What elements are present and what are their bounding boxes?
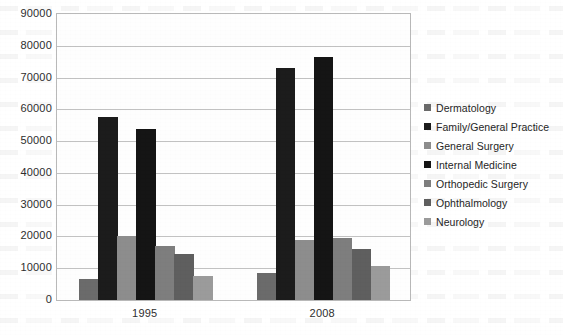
legend-item: General Surgery	[424, 136, 563, 155]
y-axis-tick-label: 90000	[0, 8, 52, 19]
bar	[98, 117, 118, 300]
y-axis-tick-label: 70000	[0, 72, 52, 83]
y-axis: 9000080000700006000050000400003000020000…	[0, 0, 52, 335]
bar	[295, 240, 315, 300]
legend-item-label: Dermatology	[436, 102, 496, 114]
plot-area	[56, 13, 411, 301]
bar	[352, 249, 372, 300]
legend-swatch-icon	[424, 142, 431, 149]
bar	[371, 266, 391, 300]
bar	[314, 57, 334, 300]
bars-layer	[57, 14, 410, 300]
y-axis-tick-label: 80000	[0, 40, 52, 51]
bar	[136, 129, 156, 300]
legend-item: Dermatology	[424, 98, 563, 117]
y-axis-tick-label: 50000	[0, 135, 52, 146]
bar	[79, 279, 99, 300]
legend-item: Ophthalmology	[424, 193, 563, 212]
legend-item: Orthopedic Surgery	[424, 174, 563, 193]
y-axis-tick-label: 0	[0, 294, 52, 305]
y-axis-tick-label: 10000	[0, 262, 52, 273]
bar	[174, 254, 194, 300]
legend-item-label: Internal Medicine	[436, 159, 517, 171]
legend-swatch-icon	[424, 180, 431, 187]
legend-swatch-icon	[424, 218, 431, 225]
x-axis-tick-label: 2008	[310, 307, 335, 319]
bar	[155, 246, 175, 300]
y-axis-tick-label: 30000	[0, 199, 52, 210]
chart-legend: DermatologyFamily/General PracticeGenera…	[424, 98, 563, 231]
legend-swatch-icon	[424, 161, 431, 168]
legend-item: Neurology	[424, 212, 563, 231]
legend-swatch-icon	[424, 104, 431, 111]
legend-swatch-icon	[424, 199, 431, 206]
x-axis-tick-label: 1995	[132, 307, 157, 319]
bar	[276, 68, 296, 300]
bar	[117, 236, 137, 300]
legend-item: Internal Medicine	[424, 155, 563, 174]
legend-item: Family/General Practice	[424, 117, 563, 136]
bar	[257, 273, 277, 300]
legend-item-label: General Surgery	[436, 140, 514, 152]
y-axis-tick-label: 40000	[0, 167, 52, 178]
y-axis-tick-label: 20000	[0, 230, 52, 241]
legend-swatch-icon	[424, 123, 431, 130]
legend-item-label: Orthopedic Surgery	[436, 178, 528, 190]
grouped-bar-chart: 9000080000700006000050000400003000020000…	[0, 0, 563, 335]
x-axis: 19952008	[56, 303, 411, 325]
bar	[193, 276, 213, 300]
legend-item-label: Family/General Practice	[436, 121, 549, 133]
y-axis-tick-label: 60000	[0, 103, 52, 114]
legend-item-label: Ophthalmology	[436, 197, 507, 209]
legend-item-label: Neurology	[436, 216, 484, 228]
bar	[333, 238, 353, 300]
